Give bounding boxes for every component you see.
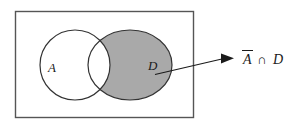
venn-diagram-figure: A D A ∩ D [0,0,298,129]
set-a-label: A [47,60,56,75]
venn-diagram-canvas: A D A ∩ D [0,0,298,129]
annotation-abar-intersect-d: A ∩ D [242,51,283,68]
set-d-label: D [147,58,158,73]
annotation-a-symbol: A [242,52,252,67]
annotation-d-symbol: D [272,52,283,67]
callout-arrowhead-icon [221,54,234,64]
annotation-intersect-operator: ∩ [257,52,266,67]
